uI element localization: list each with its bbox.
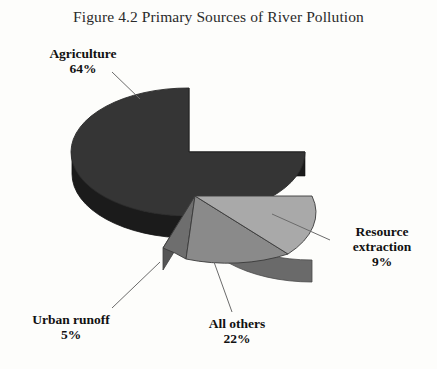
slice-label-all-others-name: All others <box>178 316 296 331</box>
slice-label-resource-extraction-name-line1: Resource <box>332 224 432 239</box>
slice-label-resource-extraction-percent: 9% <box>332 254 432 269</box>
slice-label-all-others-percent: 22% <box>178 331 296 346</box>
slice-label-agriculture-name: Agriculture <box>18 46 148 61</box>
leader-line-all-others <box>214 262 232 312</box>
slice-label-urban-runoff: Urban runoff 5% <box>6 312 136 342</box>
figure-container: Figure 4.2 Primary Sources of River Poll… <box>0 0 437 369</box>
slice-label-agriculture: Agriculture 64% <box>18 46 148 76</box>
slice-label-urban-runoff-percent: 5% <box>6 327 136 342</box>
slice-label-all-others: All others 22% <box>178 316 296 346</box>
slice-label-agriculture-percent: 64% <box>18 61 148 76</box>
leader-line-urban-runoff <box>112 262 160 308</box>
slice-label-urban-runoff-name: Urban runoff <box>6 312 136 327</box>
slice-label-resource-extraction: Resource extraction 9% <box>332 224 432 269</box>
slice-label-resource-extraction-name-line2: extraction <box>332 239 432 254</box>
